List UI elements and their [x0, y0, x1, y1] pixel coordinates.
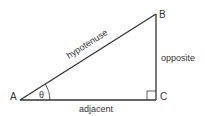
hypotenuse-label: hypotenuse: [65, 27, 110, 60]
opposite-label: opposite: [161, 53, 195, 63]
angle-theta-label: θ: [39, 90, 44, 100]
adjacent-label: adjacent: [79, 104, 114, 114]
angle-arc: [45, 84, 50, 100]
vertex-label-a: A: [10, 91, 17, 102]
hypotenuse-line: [20, 14, 156, 100]
vertex-label-c: C: [160, 91, 167, 102]
right-angle-marker: [147, 91, 156, 100]
right-triangle-diagram: A B C θ hypotenuse opposite adjacent: [0, 0, 205, 116]
vertex-label-b: B: [159, 9, 166, 20]
